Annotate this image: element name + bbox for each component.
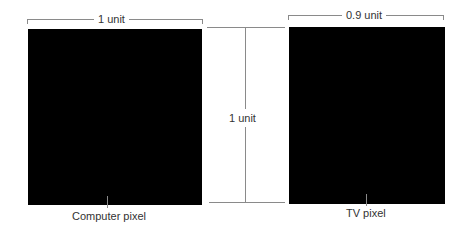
height-top-line: [207, 27, 285, 28]
height-label: 1 unit: [225, 109, 260, 127]
height-bottom-line: [209, 202, 285, 203]
computer-pixel-square: [28, 29, 202, 205]
tv-pixel-caption: TV pixel: [346, 207, 386, 219]
computer-width-bracket-right-tick: [202, 19, 203, 24]
computer-pixel-caption: Computer pixel: [72, 210, 146, 222]
tv-width-bracket-right-tick: [443, 15, 444, 20]
tv-pixel-rectangle: [289, 27, 445, 204]
computer-caption-leader: [107, 196, 108, 208]
computer-width-bracket-left-tick: [27, 19, 28, 24]
tv-caption-leader: [366, 194, 367, 206]
tv-width-bracket-left-tick: [288, 15, 289, 20]
tv-width-label: 0.9 unit: [342, 9, 386, 21]
computer-width-label: 1 unit: [94, 13, 129, 25]
